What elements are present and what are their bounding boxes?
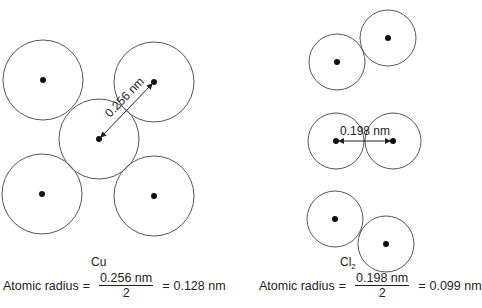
cl2-formula-prefix: Atomic radius xyxy=(259,279,335,293)
cl2-formula-denominator: 2 xyxy=(379,286,386,299)
cl-nucleus xyxy=(383,241,389,247)
cl-nucleus xyxy=(333,138,339,144)
cu-radius-formula: Atomic radius = 0.256 nm 2 = 0.128 nm xyxy=(3,272,226,299)
cl2-label-subscript: 2 xyxy=(351,262,355,271)
cu-formula-equals-2: = xyxy=(162,279,169,293)
cl-nucleus xyxy=(385,35,391,41)
cl2-label-main: Cl xyxy=(340,255,351,269)
cl2-formula-fraction: 0.198 nm 2 xyxy=(355,272,409,299)
cl-nucleus xyxy=(332,216,338,222)
cl2-formula-result: 0.099 nm xyxy=(429,279,481,293)
cl2-distance-label: 0.198 nm xyxy=(340,124,390,138)
cu-formula-equals: = xyxy=(83,279,90,293)
cl2-radius-formula: Atomic radius = 0.198 nm 2 = 0.099 nm xyxy=(259,272,482,299)
cl2-formula-equals: = xyxy=(339,279,346,293)
cu-formula-result: 0.128 nm xyxy=(173,279,225,293)
cu-nucleus xyxy=(151,193,157,199)
cu-nucleus xyxy=(40,77,46,83)
cl2-formula-equals-2: = xyxy=(418,279,425,293)
cu-formula-fraction: 0.256 nm 2 xyxy=(99,272,153,299)
cu-label: Cu xyxy=(91,256,106,268)
cl-nucleus xyxy=(334,59,340,65)
cu-formula-prefix: Atomic radius xyxy=(3,279,79,293)
cl2-label: Cl2 xyxy=(340,256,356,273)
cu-formula-numerator: 0.256 nm xyxy=(99,272,153,286)
cu-lattice xyxy=(2,40,194,236)
cl2-formula-numerator: 0.198 nm xyxy=(355,272,409,286)
cu-nucleus xyxy=(39,191,45,197)
cu-formula-denominator: 2 xyxy=(123,286,130,299)
cl-nucleus xyxy=(390,138,396,144)
